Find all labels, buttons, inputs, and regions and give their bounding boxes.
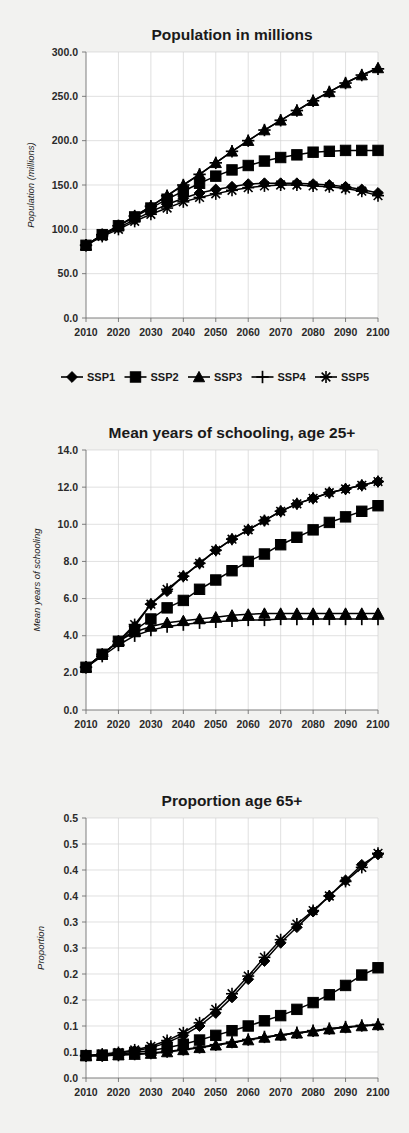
marker-asterisk [161,202,173,214]
marker-square [194,584,204,594]
marker-asterisk [80,239,92,251]
legend-entry-SSP2[interactable]: SSP2 [125,371,179,383]
marker-asterisk [80,1050,92,1062]
population-chart-svg: Population in millions0.050.0100.0150.02… [0,0,409,355]
y-tick-label: 150.0 [52,179,78,191]
marker-square [324,517,334,527]
marker-asterisk [242,524,254,536]
x-tick-label: 2020 [107,718,131,730]
legend-label: SSP4 [278,371,307,383]
marker-asterisk [129,1044,141,1056]
marker-asterisk [291,918,303,930]
marker-asterisk [340,875,352,887]
marker-asterisk [210,188,222,200]
legend-entry-SSP4[interactable]: SSP4 [252,371,307,383]
y-tick-label: 0.5 [63,812,78,824]
marker-asterisk [242,970,254,982]
marker-asterisk [129,619,141,631]
x-tick-label: 2030 [139,1086,163,1098]
x-tick-label: 2070 [269,718,293,730]
x-tick-label: 2010 [74,326,98,338]
marker-asterisk [320,371,332,383]
marker-square [259,1016,269,1026]
chart-title: Population in millions [151,26,312,43]
marker-square [130,372,140,382]
marker-asterisk [291,179,303,191]
marker-asterisk [80,661,92,673]
marker-asterisk [194,1017,206,1029]
marker-asterisk [372,847,384,859]
marker-square [275,540,285,550]
marker-asterisk [275,179,287,191]
marker-asterisk [145,208,157,220]
marker-square [308,147,318,157]
marker-asterisk [194,557,206,569]
marker-asterisk [112,223,124,235]
legend-entry-SSP5[interactable]: SSP5 [315,371,369,383]
x-tick-label: 2090 [334,1086,358,1098]
y-tick-label: 12.0 [58,481,79,493]
marker-asterisk [145,1040,157,1052]
x-tick-label: 2100 [366,1086,390,1098]
x-tick-label: 2010 [74,1086,98,1098]
marker-square [243,556,253,566]
x-tick-label: 2040 [172,1086,196,1098]
marker-asterisk [145,598,157,610]
x-tick-label: 2050 [204,1086,228,1098]
y-tick-label: 0.5 [63,838,78,850]
marker-asterisk [307,905,319,917]
figure-page: Population in millions0.050.0100.0150.02… [0,0,409,1133]
x-tick-label: 2080 [301,1086,325,1098]
marker-square [275,152,285,162]
y-tick-label: 14.0 [58,444,79,456]
y-tick-label: 0.1 [63,1046,78,1058]
marker-square [211,575,221,585]
marker-square [243,160,253,170]
y-tick-label: 0.2 [63,968,78,980]
legend-entry-SSP1[interactable]: SSP1 [61,371,115,383]
x-tick-label: 2010 [74,718,98,730]
legend-entry-SSP3[interactable]: SSP3 [188,371,242,383]
marker-asterisk [275,505,287,517]
marker-square [357,145,367,155]
marker-asterisk [307,180,319,192]
marker-square [243,1021,253,1031]
marker-asterisk [323,487,335,499]
marker-square [340,980,350,990]
marker-asterisk [129,215,141,227]
x-tick-label: 2050 [204,718,228,730]
marker-square [308,997,318,1007]
marker-asterisk [112,1047,124,1059]
x-tick-label: 2060 [237,326,261,338]
y-tick-label: 0.3 [63,942,78,954]
marker-asterisk [194,191,206,203]
x-tick-label: 2090 [334,718,358,730]
y-tick-label: 100.0 [52,223,78,235]
marker-asterisk [96,648,108,660]
legend-label: SSP5 [341,371,369,383]
y-tick-label: 6.0 [63,592,78,604]
marker-asterisk [96,1048,108,1060]
x-tick-label: 2040 [172,718,196,730]
y-axis-title: Population (millions) [25,142,36,228]
y-tick-label: 8.0 [63,555,78,567]
x-tick-label: 2020 [107,326,131,338]
marker-square [227,566,237,576]
x-tick-label: 2100 [366,326,390,338]
marker-square [340,145,350,155]
y-tick-label: 4.0 [63,629,78,641]
marker-asterisk [161,1035,173,1047]
legend-svg: SSP1SSP2SSP3SSP4SSP5 [0,355,409,395]
y-tick-label: 0.4 [63,890,78,902]
chart-panel-proportion: Proportion age 65+0.00.10.10.20.20.30.30… [0,765,409,1133]
marker-square [292,532,302,542]
y-tick-label: 0.0 [63,1072,78,1084]
marker-square [324,146,334,156]
marker-asterisk [226,988,238,1000]
marker-asterisk [242,182,254,194]
marker-asterisk [356,185,368,197]
marker-asterisk [161,583,173,595]
y-tick-label: 0.0 [63,312,78,324]
marker-asterisk [177,570,189,582]
y-tick-label: 50.0 [58,267,79,279]
